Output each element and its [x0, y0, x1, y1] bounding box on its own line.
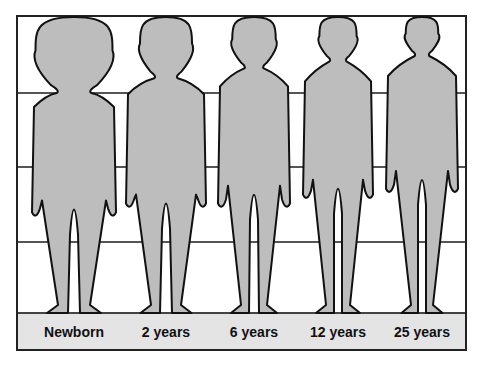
body-figures	[0, 0, 483, 369]
figure-newborn	[32, 17, 116, 313]
body-silhouette	[126, 17, 206, 313]
figure-25-years	[386, 17, 458, 313]
figure-12-years	[303, 17, 373, 313]
body-silhouette	[32, 17, 116, 313]
body-silhouette	[218, 17, 290, 313]
body-silhouette	[303, 17, 373, 313]
body-silhouette	[386, 17, 458, 313]
figure-2-years	[126, 17, 206, 313]
figure-6-years	[218, 17, 290, 313]
